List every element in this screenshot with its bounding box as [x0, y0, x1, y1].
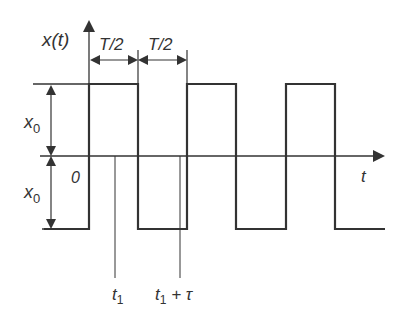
x-axis-arrow-icon	[83, 20, 95, 32]
arrow-icon	[128, 55, 138, 65]
t1-label: t1	[112, 285, 124, 307]
half-period-label-1: T/2	[99, 35, 124, 54]
arrow-icon	[46, 219, 56, 229]
arrow-icon	[46, 156, 56, 166]
arrow-icon	[177, 55, 187, 65]
arrow-icon	[46, 85, 56, 95]
origin-label: 0	[71, 169, 80, 186]
arrow-icon	[90, 55, 100, 65]
t1-tau-label: t1 + τ	[155, 285, 194, 307]
amplitude-bottom-label: x0	[23, 182, 40, 206]
amplitude-top-label: x0	[23, 112, 40, 136]
y-axis-label: x(t)	[41, 29, 69, 50]
arrow-icon	[46, 146, 56, 156]
square-wave-diagram: x(t) T/2 T/2 x0 x0 0 t t1 t1 + τ	[0, 0, 401, 319]
t-axis-label: t	[361, 167, 367, 186]
half-period-label-2: T/2	[148, 35, 173, 54]
arrow-icon	[138, 55, 148, 65]
t-axis-arrow-icon	[373, 150, 385, 162]
